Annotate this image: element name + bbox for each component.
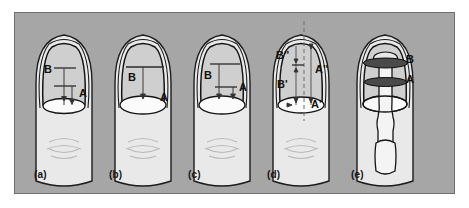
- panel-d: B'' B' A'' A' (d): [256, 13, 351, 194]
- panel-d-label-B-double-prime: B'': [276, 49, 289, 61]
- panel-b-label-B: B: [128, 71, 136, 83]
- panel-c-label-A: A: [239, 81, 247, 93]
- figure-container: B A (a) B A (b): [0, 0, 469, 208]
- panel-a-label-B: B: [44, 63, 52, 75]
- panel-b-caption: (b): [109, 169, 122, 180]
- panel-c-caption: (c): [188, 169, 201, 180]
- panel-e-illustration: [340, 13, 445, 194]
- panel-e-caption: (e): [351, 169, 364, 180]
- panel-a: B A (a): [19, 13, 109, 194]
- panel-e-label-A: A: [406, 73, 414, 85]
- panel-b-illustration: [98, 13, 188, 194]
- panel-c-label-B: B: [204, 69, 212, 81]
- panel-c-illustration: [177, 13, 267, 194]
- panel-d-label-A-double-prime: A'': [315, 63, 328, 75]
- panel-b: B A (b): [98, 13, 188, 194]
- panel-c: B A (c): [177, 13, 267, 194]
- panel-d-label-B-prime: B': [277, 78, 288, 90]
- panel-d-illustration: [256, 13, 351, 194]
- panel-a-caption: (a): [34, 169, 47, 180]
- panel-d-caption: (d): [267, 169, 280, 180]
- panel-e-label-B: B: [406, 53, 414, 65]
- panel-b-label-A: A: [160, 91, 168, 103]
- panel-a-label-A: A: [79, 87, 87, 99]
- panel-a-illustration: [19, 13, 109, 194]
- figure-plate: B A (a) B A (b): [14, 12, 455, 194]
- panel-e: B A (e): [340, 13, 445, 194]
- panel-d-label-A-prime: A': [311, 98, 322, 110]
